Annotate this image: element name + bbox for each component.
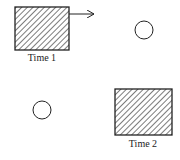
time-1-panel: Time 1 <box>15 7 153 63</box>
time-2-panel: Time 2 <box>33 89 172 149</box>
circle-time-2 <box>33 101 51 119</box>
time-2-label: Time 2 <box>129 138 157 149</box>
hatched-square-time-2 <box>115 89 172 135</box>
circle-time-1 <box>135 21 153 39</box>
motion-diagram: Time 1 Time 2 <box>0 0 180 160</box>
hatched-square-time-1 <box>15 7 69 50</box>
time-1-label: Time 1 <box>28 52 56 63</box>
